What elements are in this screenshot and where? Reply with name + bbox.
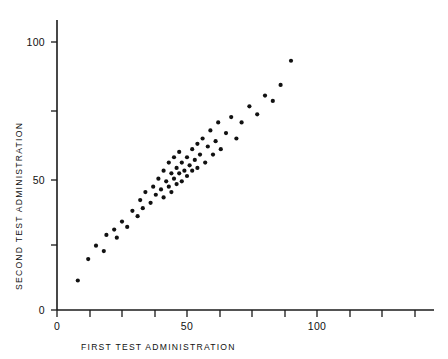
data-point <box>201 136 205 140</box>
data-point <box>234 136 238 140</box>
data-point <box>263 94 267 98</box>
data-point <box>208 128 212 132</box>
data-point <box>159 187 163 191</box>
data-point <box>149 201 153 205</box>
x-axis-tick-labels: 0 50 100 <box>54 320 326 332</box>
data-point <box>104 233 108 237</box>
data-point <box>115 236 119 240</box>
data-point <box>195 142 199 146</box>
data-point <box>211 152 215 156</box>
y-tick-label-50: 50 <box>33 174 45 186</box>
data-point <box>130 209 134 213</box>
data-point <box>175 166 179 170</box>
data-point <box>94 244 98 248</box>
data-point <box>112 228 116 232</box>
data-point <box>182 169 186 173</box>
data-point <box>169 190 173 194</box>
data-point <box>198 152 202 156</box>
data-point <box>102 249 106 253</box>
y-tick-label-0: 0 <box>39 304 45 316</box>
data-points-layer <box>76 59 293 283</box>
data-point <box>154 193 158 197</box>
x-axis-title: FIRST TEST ADMINISTRATION <box>81 342 236 352</box>
y-axis-ticks <box>51 42 57 310</box>
data-point <box>76 278 80 282</box>
data-point <box>143 190 147 194</box>
data-point <box>180 161 184 165</box>
data-point <box>141 206 145 210</box>
data-point <box>289 59 293 63</box>
data-point <box>172 155 176 159</box>
data-point <box>180 179 184 183</box>
data-point <box>162 195 166 199</box>
y-axis-title: SECOND TEST ADMINISTRATION <box>14 122 24 290</box>
scatter-plot-figure: 0 50 100 0 50 100 FIRST TEST ADMINISTRAT… <box>0 0 448 359</box>
data-point <box>175 182 179 186</box>
plot-canvas: 0 50 100 0 50 100 FIRST TEST ADMINISTRAT… <box>0 0 448 359</box>
data-point <box>240 120 244 124</box>
data-point <box>86 257 90 261</box>
y-axis-tick-labels: 0 50 100 <box>27 36 45 316</box>
data-point <box>279 83 283 87</box>
data-point <box>193 158 197 162</box>
data-point <box>164 179 168 183</box>
data-point <box>224 131 228 135</box>
x-axis-ticks <box>57 310 415 317</box>
data-point <box>172 177 176 181</box>
data-point <box>190 147 194 151</box>
data-point <box>167 185 171 189</box>
data-point <box>247 104 251 108</box>
data-point <box>185 155 189 159</box>
x-tick-label-100: 100 <box>308 320 326 332</box>
data-point <box>136 214 140 218</box>
data-point <box>190 169 194 173</box>
data-point <box>203 161 207 165</box>
data-point <box>271 99 275 103</box>
data-point <box>120 219 124 223</box>
data-point <box>206 144 210 148</box>
data-point <box>195 166 199 170</box>
data-point <box>185 174 189 178</box>
data-point <box>138 198 142 202</box>
data-point <box>177 171 181 175</box>
data-point <box>255 112 259 116</box>
data-point <box>229 115 233 119</box>
data-point <box>151 185 155 189</box>
data-point <box>219 147 223 151</box>
data-point <box>162 169 166 173</box>
x-tick-label-0: 0 <box>54 320 60 332</box>
x-tick-label-50: 50 <box>181 320 193 332</box>
data-point <box>167 161 171 165</box>
data-point <box>188 163 192 167</box>
data-point <box>214 139 218 143</box>
data-point <box>156 177 160 181</box>
axis-lines <box>57 20 434 310</box>
data-point <box>169 171 173 175</box>
data-point <box>125 225 129 229</box>
y-tick-label-100: 100 <box>27 36 45 48</box>
data-point <box>216 120 220 124</box>
data-point <box>177 150 181 154</box>
